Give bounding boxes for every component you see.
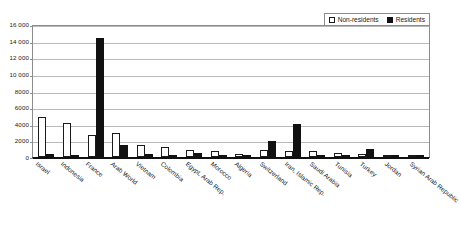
bar-non-residents bbox=[358, 154, 366, 157]
bar-residents bbox=[317, 155, 325, 157]
y-tick-label: 6000 bbox=[15, 105, 29, 111]
bar-non-residents bbox=[38, 117, 46, 157]
legend-entry: Non-residents bbox=[329, 16, 379, 23]
bar-group bbox=[330, 26, 355, 157]
plot-area bbox=[32, 25, 430, 158]
bar-non-residents bbox=[88, 135, 96, 157]
bar-group bbox=[133, 26, 158, 157]
bar-group bbox=[34, 26, 59, 157]
bar-group bbox=[403, 26, 428, 157]
bar-group bbox=[59, 26, 84, 157]
bar-group bbox=[83, 26, 108, 157]
y-tick-label: 0 bbox=[25, 155, 29, 161]
bar-residents bbox=[169, 155, 177, 157]
y-tick-label: 12 000 bbox=[9, 55, 29, 61]
bar-group bbox=[182, 26, 207, 157]
bar-residents bbox=[194, 153, 202, 157]
bar-non-residents bbox=[408, 155, 416, 157]
legend-label: Non-residents bbox=[338, 16, 379, 23]
bar-residents bbox=[145, 154, 153, 157]
bar-non-residents bbox=[334, 153, 342, 157]
bar-non-residents bbox=[235, 154, 243, 157]
bar-residents bbox=[243, 155, 251, 157]
x-tick-label: Israel bbox=[35, 160, 52, 175]
bars-layer bbox=[33, 26, 429, 157]
bar-residents bbox=[342, 155, 350, 157]
bar-group bbox=[256, 26, 281, 157]
filled-square-icon bbox=[387, 17, 393, 23]
bar-group bbox=[379, 26, 404, 157]
y-tick-label: 8000 bbox=[15, 88, 29, 94]
x-tick-label: Turkey bbox=[358, 160, 378, 178]
x-tick-label: Tunisia bbox=[334, 160, 355, 178]
bar-residents bbox=[71, 155, 79, 157]
bar-non-residents bbox=[383, 155, 391, 157]
bar-residents bbox=[46, 154, 54, 157]
x-tick-label: France bbox=[85, 160, 105, 178]
bar-non-residents bbox=[63, 123, 71, 157]
bar-residents bbox=[120, 145, 128, 157]
bar-non-residents bbox=[161, 147, 169, 157]
y-tick-label: 14 000 bbox=[9, 39, 29, 45]
x-tick-label: Vietnam bbox=[135, 160, 158, 180]
y-tick-label: 2000 bbox=[15, 138, 29, 144]
legend-label: Residents bbox=[396, 16, 425, 23]
y-axis: 16 00014 00012 00010 0008000600040002000… bbox=[0, 0, 32, 231]
legend-entry: Residents bbox=[387, 16, 425, 23]
x-tick-label: Syrian Arab Republic bbox=[408, 160, 460, 204]
x-axis: IsraelIndonesiaFranceArab WorldVietnamCo… bbox=[32, 158, 430, 231]
y-tick-label: 10 000 bbox=[9, 72, 29, 78]
bar-group bbox=[206, 26, 231, 157]
bar-group bbox=[231, 26, 256, 157]
bar-non-residents bbox=[211, 151, 219, 157]
bar-residents bbox=[416, 155, 424, 157]
bar-group bbox=[108, 26, 133, 157]
x-tick-label: Jordan bbox=[383, 160, 403, 178]
bar-non-residents bbox=[112, 133, 120, 157]
bar-group bbox=[280, 26, 305, 157]
y-tick-label: 16 000 bbox=[9, 22, 29, 28]
bar-residents bbox=[391, 155, 399, 157]
chart-legend: Non-residentsResidents bbox=[324, 13, 430, 26]
bar-residents bbox=[268, 141, 276, 157]
bar-non-residents bbox=[137, 145, 145, 157]
bar-residents bbox=[219, 155, 227, 157]
x-tick-label: Colombia bbox=[159, 160, 185, 183]
bar-group bbox=[354, 26, 379, 157]
bar-group bbox=[305, 26, 330, 157]
bar-non-residents bbox=[260, 150, 268, 157]
x-tick-label: Morocco bbox=[209, 160, 233, 181]
bar-residents bbox=[366, 149, 374, 157]
bar-non-residents bbox=[309, 151, 317, 157]
bar-group bbox=[157, 26, 182, 157]
y-tick-label: 4000 bbox=[15, 122, 29, 128]
x-tick-label: Indonesia bbox=[60, 160, 86, 183]
bar-non-residents bbox=[285, 151, 293, 157]
hollow-square-icon bbox=[329, 17, 335, 23]
bar-residents bbox=[96, 38, 104, 157]
bar-non-residents bbox=[186, 150, 194, 157]
bar-residents bbox=[293, 124, 301, 157]
x-tick-label: Algeria bbox=[234, 160, 254, 178]
